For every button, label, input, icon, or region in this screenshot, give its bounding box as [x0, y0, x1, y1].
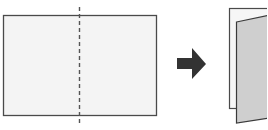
fold-diagram: [0, 0, 267, 130]
right-arrow-icon: [177, 48, 206, 79]
front-panel: [237, 15, 268, 123]
flat-sheet: [4, 7, 157, 124]
folded-sheet: [230, 9, 268, 124]
